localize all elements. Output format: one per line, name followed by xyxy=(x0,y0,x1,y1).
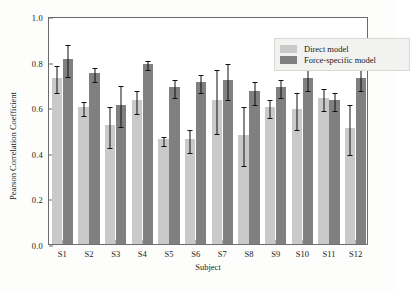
error-bar xyxy=(323,89,324,112)
error-bar-cap xyxy=(321,89,326,90)
legend-item-force-specific-model: Force-specific model xyxy=(280,55,404,65)
x-axis-title: Subject xyxy=(48,262,368,272)
error-bar xyxy=(281,80,282,98)
bar-s1-direct xyxy=(52,78,63,244)
x-tick-label: S2 xyxy=(85,249,94,259)
x-tick-label: S8 xyxy=(245,249,254,259)
error-bar-cap xyxy=(252,105,257,106)
error-bar-cap xyxy=(145,70,150,71)
error-bar xyxy=(201,75,202,93)
y-tick-label: 0.4 xyxy=(32,150,49,160)
x-tick-label: S4 xyxy=(138,249,147,259)
bar-s10-force xyxy=(303,78,314,244)
error-bar-cap xyxy=(65,77,70,78)
bar-s7-force xyxy=(223,80,234,244)
y-tick-mark xyxy=(49,63,53,64)
chart-legend: Direct model Force-specific model xyxy=(274,38,410,71)
y-axis-title: Pearson Correlation Coefficient xyxy=(8,66,18,226)
error-bar xyxy=(296,93,297,129)
error-bar xyxy=(334,93,335,111)
x-tick-label: S11 xyxy=(323,249,336,259)
error-bar-cap xyxy=(134,114,139,115)
error-bar-cap xyxy=(214,134,219,135)
error-bar-cap xyxy=(241,107,246,108)
error-bar xyxy=(216,70,217,134)
error-bar-cap xyxy=(305,91,310,92)
error-bar-cap xyxy=(332,111,337,112)
error-bar xyxy=(121,86,122,127)
error-bar-cap xyxy=(161,146,166,147)
error-bar-cap xyxy=(92,68,97,69)
error-bar-cap xyxy=(119,86,124,87)
bar-s2-force xyxy=(89,73,100,244)
bar-s12-force xyxy=(356,78,367,244)
bar-s2-direct xyxy=(78,107,89,244)
bar-s1-force xyxy=(63,59,74,244)
error-bar xyxy=(56,66,57,93)
legend-swatch-icon-direct-model xyxy=(280,45,297,53)
error-bar-cap xyxy=(54,93,59,94)
x-tick-label: S7 xyxy=(218,249,227,259)
error-bar-cap xyxy=(359,91,364,92)
x-tick-label: S9 xyxy=(271,249,280,259)
error-bar-cap xyxy=(214,70,219,71)
error-bar xyxy=(136,91,137,114)
error-bar-cap xyxy=(172,98,177,99)
error-bar-cap xyxy=(252,82,257,83)
x-tick-label: S10 xyxy=(296,249,309,259)
x-tick-label: S12 xyxy=(349,249,362,259)
legend-label-direct-model: Direct model xyxy=(304,44,349,54)
legend-label-force-specific-model: Force-specific model xyxy=(304,55,376,65)
error-bar-cap xyxy=(81,116,86,117)
error-bar xyxy=(227,64,228,100)
error-bar xyxy=(163,137,164,146)
error-bar xyxy=(243,107,244,166)
error-bar-cap xyxy=(268,118,273,119)
error-bar-cap xyxy=(279,98,284,99)
error-bar-cap xyxy=(348,105,353,106)
error-bar-cap xyxy=(108,107,113,108)
error-bar xyxy=(94,68,95,82)
error-bar-cap xyxy=(294,93,299,94)
bar-s11-direct xyxy=(318,98,329,244)
bar-s4-force xyxy=(143,64,154,244)
error-bar xyxy=(110,107,111,148)
error-bar xyxy=(174,80,175,98)
error-bar xyxy=(361,68,362,91)
x-tick-label: S3 xyxy=(111,249,120,259)
y-tick-label: 0.8 xyxy=(32,59,49,69)
error-bar xyxy=(190,130,191,153)
error-bar-cap xyxy=(65,45,70,46)
x-tick-label: S1 xyxy=(58,249,67,259)
bar-s9-force xyxy=(276,87,287,244)
error-bar-cap xyxy=(134,91,139,92)
error-bar-cap xyxy=(279,80,284,81)
error-bar-cap xyxy=(225,100,230,101)
error-bar-cap xyxy=(172,80,177,81)
bar-s6-force xyxy=(196,82,207,244)
error-bar xyxy=(307,68,308,91)
error-bar-cap xyxy=(188,153,193,154)
error-bar-cap xyxy=(108,148,113,149)
plot-area: 0.00.20.40.60.81.0 S1S2S3S4S5S6S7S8S9S10… xyxy=(48,17,368,245)
error-bar-cap xyxy=(92,82,97,83)
legend-swatch-icon-force-specific-model xyxy=(280,56,297,64)
error-bar-cap xyxy=(199,93,204,94)
x-tick-label: S5 xyxy=(165,249,174,259)
y-tick-mark xyxy=(49,246,53,247)
error-bar xyxy=(350,105,351,155)
error-bar-cap xyxy=(188,130,193,131)
y-tick-label: 0.6 xyxy=(32,104,49,114)
error-bar xyxy=(270,100,271,118)
error-bar xyxy=(254,82,255,105)
error-bar-cap xyxy=(332,93,337,94)
error-bar-cap xyxy=(145,61,150,62)
bar-s6-direct xyxy=(185,139,196,244)
error-bar-cap xyxy=(161,137,166,138)
error-bar xyxy=(67,45,68,77)
error-bar-cap xyxy=(294,130,299,131)
error-bar-cap xyxy=(225,64,230,65)
error-bar-cap xyxy=(268,100,273,101)
legend-item-direct-model: Direct model xyxy=(280,44,404,54)
